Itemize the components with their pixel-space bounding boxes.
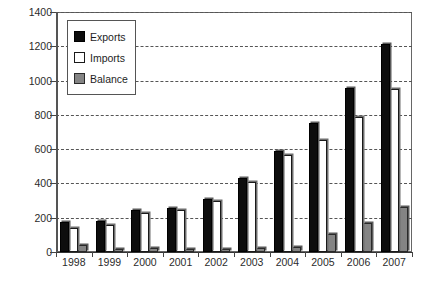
y-tick-label: 0 — [8, 246, 52, 258]
legend-label-exports: Exports — [90, 31, 126, 43]
bar-balance-2002 — [221, 249, 230, 252]
x-axis-labels: 1998199920002001200220032004200520062007 — [56, 256, 412, 276]
y-tick-label: 200 — [8, 212, 52, 224]
bar-imports-1999 — [105, 225, 114, 252]
bar-balance-1999 — [114, 249, 123, 252]
bar-exports-2005 — [309, 123, 318, 252]
bar-exports-2004 — [274, 151, 283, 252]
y-tick-label: 1000 — [8, 75, 52, 87]
bar-balance-2001 — [185, 249, 194, 252]
legend-label-balance: Balance — [90, 73, 128, 85]
bar-exports-2003 — [238, 178, 247, 252]
bar-imports-2003 — [247, 182, 256, 252]
bar-imports-2004 — [283, 155, 292, 252]
x-tick-label-2004: 2004 — [270, 256, 306, 276]
bar-balance-2007 — [399, 207, 408, 252]
bar-group-2001 — [163, 12, 199, 252]
bar-imports-2007 — [390, 89, 399, 252]
legend-swatch-exports — [74, 31, 85, 42]
bar-imports-2001 — [176, 210, 185, 252]
y-tick-label: 1400 — [8, 6, 52, 18]
x-tick-mark — [412, 252, 413, 257]
bar-balance-1998 — [78, 245, 87, 252]
bar-imports-2006 — [354, 117, 363, 252]
legend-item-balance: Balance — [74, 68, 129, 89]
bar-group-2005 — [305, 12, 341, 252]
y-tick-label: 600 — [8, 143, 52, 155]
bar-balance-2005 — [327, 234, 336, 252]
y-tick-label: 400 — [8, 177, 52, 189]
bar-exports-2000 — [131, 210, 140, 252]
legend-label-imports: Imports — [90, 52, 125, 64]
bar-chart: 0200400600800100012001400 19981999200020… — [0, 0, 444, 283]
x-tick-label-2003: 2003 — [234, 256, 270, 276]
x-tick-label-2005: 2005 — [305, 256, 341, 276]
legend-swatch-balance — [74, 73, 85, 84]
bar-imports-1998 — [69, 228, 78, 252]
bar-group-2007 — [376, 12, 412, 252]
bar-balance-2000 — [149, 248, 158, 252]
bar-exports-1999 — [96, 221, 105, 252]
bar-imports-2005 — [318, 140, 327, 252]
bar-group-2004 — [270, 12, 306, 252]
legend-swatch-imports — [74, 52, 85, 63]
bar-exports-2001 — [167, 208, 176, 252]
bar-group-2003 — [234, 12, 270, 252]
x-tick-label-2001: 2001 — [163, 256, 199, 276]
bar-balance-2003 — [256, 248, 265, 252]
bar-exports-1998 — [60, 222, 69, 252]
chart-legend: Exports Imports Balance — [67, 20, 136, 95]
bar-exports-2002 — [203, 199, 212, 252]
bar-exports-2006 — [345, 88, 354, 252]
x-tick-label-1999: 1999 — [92, 256, 128, 276]
bar-group-2006 — [341, 12, 377, 252]
y-tick-label: 1200 — [8, 40, 52, 52]
bar-imports-2002 — [212, 201, 221, 252]
bar-balance-2004 — [292, 247, 301, 252]
legend-item-exports: Exports — [74, 26, 129, 47]
x-tick-label-2007: 2007 — [376, 256, 412, 276]
bar-group-2002 — [198, 12, 234, 252]
bar-imports-2000 — [140, 213, 149, 252]
x-tick-label-2006: 2006 — [341, 256, 377, 276]
x-tick-label-1998: 1998 — [56, 256, 92, 276]
x-tick-label-2002: 2002 — [198, 256, 234, 276]
legend-item-imports: Imports — [74, 47, 129, 68]
x-tick-label-2000: 2000 — [127, 256, 163, 276]
bar-balance-2006 — [363, 223, 372, 252]
bar-exports-2007 — [381, 44, 390, 252]
y-tick-label: 800 — [8, 109, 52, 121]
